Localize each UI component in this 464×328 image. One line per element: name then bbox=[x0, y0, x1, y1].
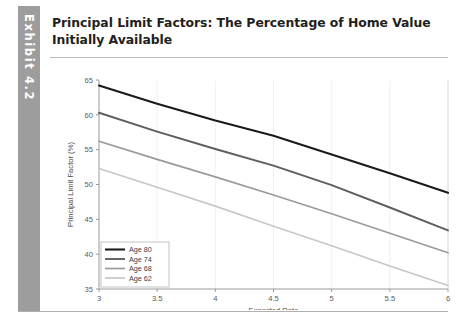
y-tick-label: 45 bbox=[85, 215, 93, 224]
chart-container: 3540455055606533.544.555.56Expected Rate… bbox=[50, 62, 458, 310]
legend-label-age-62: Age 62 bbox=[129, 274, 152, 283]
y-axis-label: Principal Limit Factor (%) bbox=[66, 142, 75, 227]
x-tick-label: 3.5 bbox=[152, 294, 163, 303]
exhibit-tab: Exhibit 4.2 bbox=[18, 6, 40, 312]
y-tick-label: 65 bbox=[85, 76, 93, 85]
exhibit-tab-label: Exhibit 4.2 bbox=[18, 14, 40, 101]
x-tick-label: 4.5 bbox=[268, 294, 279, 303]
x-tick-label: 4 bbox=[213, 294, 217, 303]
y-tick-label: 50 bbox=[85, 180, 93, 189]
legend-label-age-74: Age 74 bbox=[129, 255, 152, 264]
y-tick-label: 40 bbox=[85, 250, 93, 259]
x-tick-label: 6 bbox=[446, 294, 450, 303]
legend-label-age-68: Age 68 bbox=[129, 264, 152, 273]
x-axis-label: Expected Rate bbox=[249, 306, 299, 310]
exhibit-card: Exhibit 4.2 Principal Limit Factors: The… bbox=[18, 6, 448, 312]
legend-label-age-80: Age 80 bbox=[129, 245, 152, 254]
x-tick-label: 3 bbox=[97, 294, 101, 303]
line-chart: 3540455055606533.544.555.56Expected Rate… bbox=[50, 62, 458, 310]
y-tick-label: 55 bbox=[85, 145, 93, 154]
header-divider bbox=[50, 57, 448, 58]
card-bottom-rule bbox=[18, 311, 448, 312]
exhibit-title: Principal Limit Factors: The Percentage … bbox=[52, 15, 438, 48]
screenshot-root: Exhibit 4.2 Principal Limit Factors: The… bbox=[0, 0, 464, 328]
y-tick-label: 60 bbox=[85, 111, 93, 120]
x-tick-label: 5.5 bbox=[385, 294, 396, 303]
exhibit-card-body: Principal Limit Factors: The Percentage … bbox=[40, 6, 448, 312]
x-tick-label: 5 bbox=[330, 294, 334, 303]
y-tick-label: 35 bbox=[85, 285, 93, 294]
